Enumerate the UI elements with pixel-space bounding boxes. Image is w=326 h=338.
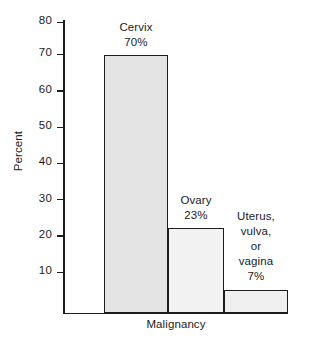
bar-chart: Percent 80 70 60 50 40 30 20 10 Cervix 7… (0, 0, 326, 338)
plot-area: Cervix 70% Ovary 23% Uterus, vulva, or v… (0, 0, 326, 338)
x-axis-title: Malignancy (63, 318, 289, 330)
bar-label-cervix: Cervix 70% (96, 20, 176, 50)
bar-cervix[interactable] (104, 55, 168, 313)
bar-label-uterus-vulva-vagina: Uterus, vulva, or vagina 7% (216, 209, 296, 284)
bar-uterus-vulva-vagina[interactable] (224, 290, 288, 313)
x-axis-line (63, 313, 288, 315)
